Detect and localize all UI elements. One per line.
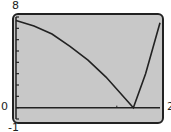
axes [16,17,160,119]
function-curve [16,20,160,107]
plot-area [0,0,171,132]
